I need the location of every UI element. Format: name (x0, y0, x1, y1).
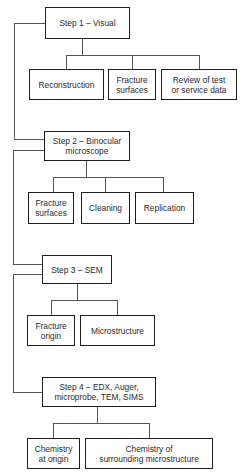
step-2-branch-3 (163, 177, 164, 192)
trunk-stub-1-top (14, 23, 45, 24)
step-2-branch-bar (53, 177, 164, 178)
step-2-label: Step 2 – Binocular microscope (53, 136, 121, 156)
trunk-stub-3-top (13, 274, 42, 275)
step-2-connector (86, 161, 87, 177)
step-4-label: Step 4 – EDX, Auger, microprobe, TEM, SI… (54, 382, 143, 402)
trunk-stub-2-bottom (13, 264, 42, 265)
trunk-line-2 (13, 150, 14, 265)
trunk-stub-1-bottom (14, 139, 44, 140)
step-1-child-review-data: Review of test or service data (161, 69, 237, 100)
step-2-child-fracture-surfaces: Fracture surfaces (28, 192, 74, 224)
step-1-branch-2 (132, 55, 133, 69)
step-2-branch-2 (105, 177, 106, 192)
step-4-child-chemistry-surrounding: Chemistry of surrounding microstructure (85, 438, 213, 469)
step-1-child-fracture-surfaces: Fracture surfaces (108, 69, 156, 100)
trunk-stub-3-bottom (13, 392, 42, 393)
step-3-child-microstructure: Microstructure (80, 315, 155, 346)
step-3-box: Step 3 – SEM (42, 255, 112, 284)
step-4-branch-1 (53, 423, 54, 438)
step-2-child-replication: Replication (135, 192, 194, 224)
step-3-branch-1 (51, 300, 52, 315)
step-4-box: Step 4 – EDX, Auger, microprobe, TEM, SI… (42, 377, 156, 407)
step-3-label: Step 3 – SEM (51, 265, 103, 275)
step-1-branch-1 (66, 55, 67, 69)
step-4-child-chemistry-origin: Chemistry at origin (27, 438, 80, 469)
trunk-line-1 (14, 23, 15, 140)
step-1-branch-3 (199, 55, 200, 69)
trunk-line-3 (13, 274, 14, 393)
step-1-label: Step 1 – Visual (59, 18, 115, 28)
step-2-branch-1 (53, 177, 54, 192)
trunk-stub-2-top (13, 150, 44, 151)
step-4-branch-bar (53, 423, 150, 424)
step-3-branch-bar (51, 300, 118, 301)
step-3-child-fracture-origin: Fracture origin (27, 315, 75, 346)
step-1-box: Step 1 – Visual (45, 7, 130, 39)
step-3-branch-2 (117, 300, 118, 315)
step-1-child-reconstruction: Reconstruction (29, 69, 104, 100)
step-4-branch-2 (149, 423, 150, 438)
step-4-connector (97, 407, 98, 423)
step-1-branch-bar (66, 55, 200, 56)
step-1-connector (82, 39, 83, 55)
step-3-connector (77, 284, 78, 300)
step-2-box: Step 2 – Binocular microscope (44, 131, 130, 161)
step-2-child-cleaning: Cleaning (81, 192, 130, 224)
